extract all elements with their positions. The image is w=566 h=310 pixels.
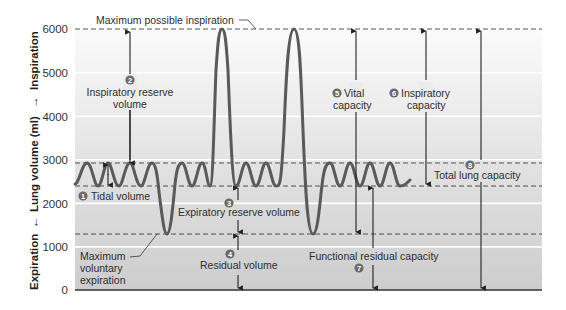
- tick-5000: 5000: [42, 67, 68, 79]
- svg-text:Maximum: Maximum: [80, 250, 126, 262]
- tick-0: 0: [62, 284, 68, 296]
- max-inspiration-label: Maximum possible inspiration: [96, 14, 256, 29]
- svg-text:Maximum possible inspiration: Maximum possible inspiration: [96, 14, 234, 26]
- arrow-up-icon: →: [28, 97, 40, 109]
- frc-label: Functional residual capacity: [309, 250, 439, 262]
- ylabel-expiration: Expiration: [28, 234, 40, 290]
- y-axis-ticks: 6000 5000 4000 3000 2000 1000 0: [42, 23, 68, 296]
- ic-label-line1: Inspiratory: [401, 87, 451, 99]
- svg-text:voluntary: voluntary: [80, 262, 123, 274]
- erv-label: Expiratory reserve volume: [178, 206, 300, 218]
- lung-volume-diagram: 6000 5000 4000 3000 2000 1000 0 Expirati…: [0, 0, 566, 310]
- tick-4000: 4000: [42, 111, 68, 123]
- tick-2000: 2000: [42, 198, 68, 210]
- rv-label: Residual volume: [200, 259, 278, 271]
- irv-label-line2: volume: [113, 98, 147, 110]
- vc-label-line1: Vital: [344, 87, 364, 99]
- tidal-volume-label: Tidal volume: [91, 190, 150, 202]
- svg-text:6: 6: [392, 89, 396, 98]
- svg-text:expiration: expiration: [80, 274, 126, 286]
- ylabel-inspiration: Inspiration: [28, 31, 40, 90]
- arrow-down-icon: ←: [28, 217, 40, 229]
- svg-text:7: 7: [357, 264, 361, 273]
- svg-text:5: 5: [335, 89, 339, 98]
- tlc-label: Total lung capacity: [434, 169, 521, 181]
- tick-6000: 6000: [42, 23, 68, 35]
- irv-label-line1: Inspiratory reserve: [87, 86, 174, 98]
- tick-1000: 1000: [42, 241, 68, 253]
- spirogram-chart: 6000 5000 4000 3000 2000 1000 0 Expirati…: [0, 0, 566, 310]
- vc-label-line2: capacity: [333, 99, 372, 111]
- y-axis-label: Expiration ← Lung volume (ml) → Inspirat…: [28, 31, 40, 290]
- svg-text:2: 2: [128, 76, 132, 85]
- ic-label-line2: capacity: [407, 99, 446, 111]
- svg-text:1: 1: [81, 192, 85, 201]
- ylabel-main: Lung volume (ml): [28, 116, 40, 212]
- tick-3000: 3000: [42, 154, 68, 166]
